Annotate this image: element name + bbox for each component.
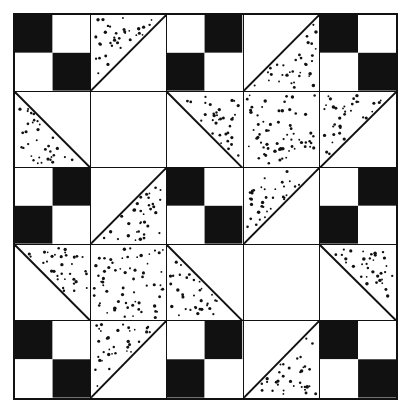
quilt-cell-r5c1-checker-dark	[15, 321, 91, 398]
quilt-outer-frame	[13, 13, 398, 400]
quilt-patch-triangle	[244, 168, 319, 244]
quilt-patch-triangle	[167, 92, 242, 168]
quilt-cell-r3c5-checker-light	[320, 168, 396, 245]
quilt-patch-triangle	[244, 321, 319, 398]
quilt-cell-r1c4-triangle-stipple-lower-right	[244, 15, 320, 92]
quilt-cell-r3c2-triangle-stipple-lower-right	[91, 168, 167, 245]
quilt-figure	[0, 0, 412, 414]
quilt-cell-r2c1-triangle-stipple-lower-left	[15, 92, 91, 169]
quilt-patch-checker	[167, 168, 242, 244]
quilt-patch-triangle	[91, 15, 166, 91]
quilt-patch-triangle	[91, 321, 166, 398]
quilt-cell-r5c2-triangle-stipple-upper-left	[91, 321, 167, 398]
quilt-patch-triangle	[320, 245, 396, 321]
quilt-patch-stipple-full	[91, 245, 166, 321]
quilt-grid	[15, 15, 396, 398]
quilt-cell-r5c5-checker-dark	[320, 321, 396, 398]
quilt-patch-checker	[15, 15, 90, 91]
quilt-cell-r4c5-triangle-stipple-upper-right	[320, 245, 396, 322]
quilt-cell-r2c3-triangle-stipple-upper-right	[167, 92, 243, 169]
quilt-patch-checker	[320, 168, 396, 244]
quilt-cell-r1c1-checker-dark	[15, 15, 91, 92]
quilt-cell-r4c4-plain-white	[244, 245, 320, 322]
quilt-patch-checker	[15, 168, 90, 244]
quilt-patch-checker	[167, 321, 242, 398]
quilt-patch-triangle	[320, 92, 396, 168]
quilt-cell-r1c3-checker-light	[167, 15, 243, 92]
quilt-patch-plain	[91, 92, 166, 168]
quilt-cell-r5c4-triangle-stipple-lower-right	[244, 321, 320, 398]
quilt-cell-r3c1-checker-light	[15, 168, 91, 245]
quilt-cell-r2c2-plain-white	[91, 92, 167, 169]
quilt-cell-r3c4-triangle-stipple-upper-left	[244, 168, 320, 245]
quilt-patch-triangle	[15, 245, 90, 321]
quilt-patch-plain	[244, 245, 319, 321]
quilt-patch-stipple-full	[244, 92, 319, 168]
quilt-cell-r2c5-triangle-stipple-upper-left	[320, 92, 396, 169]
quilt-patch-triangle	[91, 168, 166, 244]
quilt-cell-r4c2-stipple-square	[91, 245, 167, 322]
quilt-cell-r4c1-triangle-stipple-upper-right	[15, 245, 91, 322]
quilt-patch-triangle	[15, 92, 90, 168]
quilt-patch-checker	[15, 321, 90, 398]
quilt-patch-checker	[320, 321, 396, 398]
quilt-cell-r5c3-checker-light	[167, 321, 243, 398]
quilt-cell-r1c5-checker-dark	[320, 15, 396, 92]
quilt-cell-r2c4-stipple-square	[244, 92, 320, 169]
quilt-cell-r4c3-triangle-stipple-lower-left	[167, 245, 243, 322]
quilt-cell-r1c2-triangle-stipple-upper-left	[91, 15, 167, 92]
quilt-patch-checker	[167, 15, 242, 91]
quilt-patch-triangle	[244, 15, 319, 91]
quilt-patch-checker	[320, 15, 396, 91]
quilt-cell-r3c3-checker-dark	[167, 168, 243, 245]
quilt-patch-triangle	[167, 245, 242, 321]
